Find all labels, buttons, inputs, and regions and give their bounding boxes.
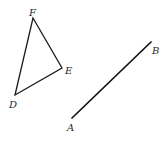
geometry-figure: F E D A B	[0, 0, 168, 141]
vertex-label-f: F	[28, 7, 37, 18]
endpoint-label-b: B	[151, 45, 159, 56]
vertex-label-d: D	[8, 99, 17, 110]
vertex-label-e: E	[64, 65, 73, 76]
triangle-def	[15, 18, 62, 95]
endpoint-label-a: A	[66, 122, 74, 133]
segment-ab	[72, 42, 151, 118]
